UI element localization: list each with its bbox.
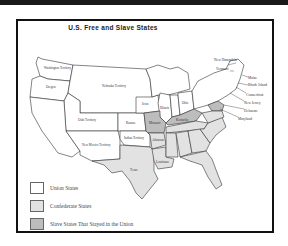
label-nebraska: Nebraska Territory: [102, 84, 126, 88]
label-kentucky: Kentucky: [176, 118, 189, 122]
label-missouri: Missouri: [149, 121, 160, 125]
label-louisiana: Louisiana: [156, 160, 169, 164]
label-utah: Utah Territory: [78, 118, 97, 122]
callout-new-hampshire: New Hampshire: [214, 58, 238, 62]
map-legend: Union States Confederate States Slave St…: [30, 179, 133, 233]
legend-label-union: Union States: [50, 185, 78, 191]
callout-delaware: Delaware: [244, 109, 258, 113]
legend-item-confederate: Confederate States: [30, 197, 133, 215]
callout-maine: Maine: [248, 76, 258, 80]
label-illinois: Illinois: [160, 106, 170, 110]
callout-vermont: Vermont: [216, 67, 228, 71]
label-washington: Washington Territory: [44, 66, 72, 70]
legend-label-border: Slave States That Stayed in the Union: [50, 221, 133, 227]
label-indian: Indian Territory: [124, 136, 145, 140]
legend-swatch-border: [30, 218, 44, 230]
legend-item-union: Union States: [30, 179, 133, 197]
legend-swatch-union: [30, 182, 44, 194]
map-frame: U.S. Free and Slave States: [16, 19, 274, 233]
legend-label-confederate: Confederate States: [50, 203, 91, 209]
callout-connecticut: Connecticut: [246, 93, 263, 97]
label-oregon: Oregon: [46, 85, 56, 89]
callout-maryland: Maryland: [238, 117, 252, 121]
legend-item-border: Slave States That Stayed in the Union: [30, 215, 133, 233]
label-iowa: Iowa: [142, 102, 149, 106]
callout-new-jersey: New Jersey: [244, 101, 261, 105]
callout-rhode-island: Rhode Island: [248, 83, 267, 87]
label-newmexico: New Mexico Territory: [82, 143, 111, 147]
region-mississippi: [166, 133, 178, 157]
legend-swatch-confederate: [30, 200, 44, 212]
label-arkansas: Arkansas: [152, 138, 165, 142]
region-florida: [180, 151, 222, 189]
label-ohio: Ohio: [182, 101, 189, 105]
label-texas: Texas: [130, 168, 138, 172]
label-kansas: Kansas: [126, 121, 136, 125]
top-bar: [0, 0, 288, 5]
